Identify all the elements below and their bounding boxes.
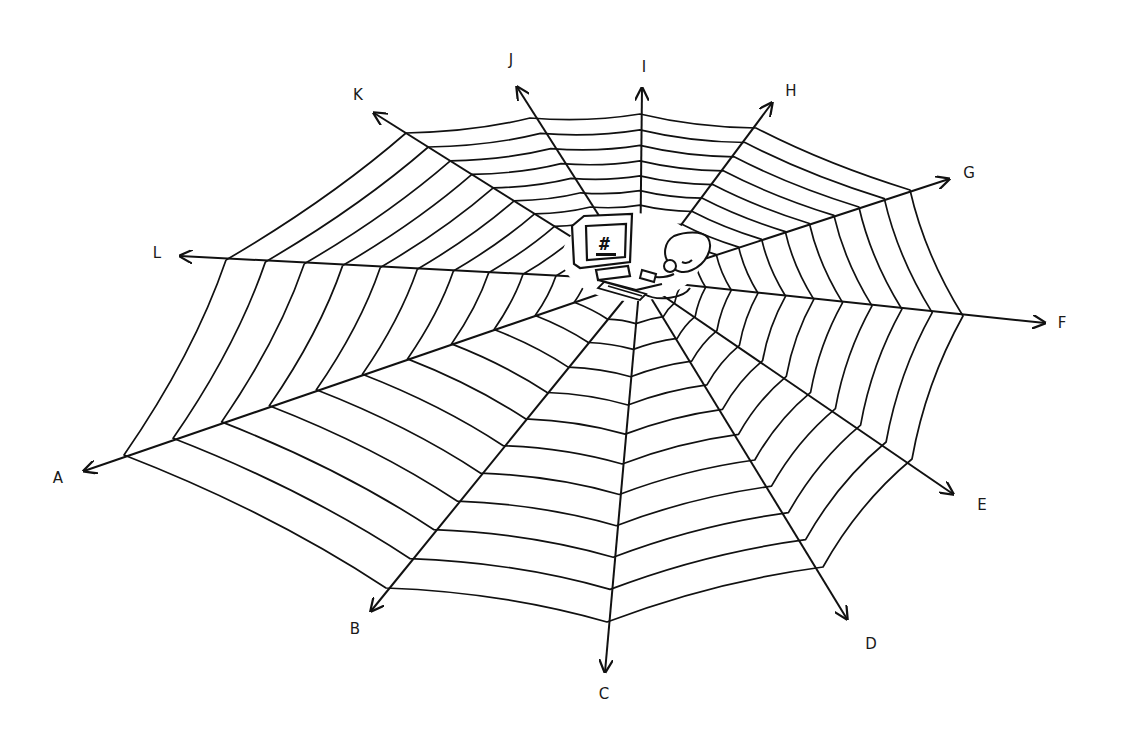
web-ring [269,161,872,526]
web-ring [124,114,963,622]
spoke-f [640,280,1045,323]
spoke-label-h: H [785,82,796,100]
spoke-label-b: B [350,620,360,638]
web-spokes [84,87,1045,672]
spoke-label-a: A [53,469,63,487]
spoke-label-e: E [977,496,986,514]
spoke-label-j: J [509,51,513,69]
screen-hash-icon: # [599,233,610,254]
spider-web-drawing: # [0,0,1123,747]
spoke-a [84,280,640,471]
spoke-label-f: F [1058,314,1067,332]
spoke-label-l: L [153,244,161,262]
spoke-label-i: I [642,58,646,76]
spoke-label-d: D [865,635,877,653]
spoke-c [605,280,640,672]
spoke-e [640,280,953,494]
spoke-label-c: C [599,685,609,703]
spoke-label-k: K [353,86,363,104]
spoke-label-g: G [963,164,975,182]
spider-web-diagram: # ABCDEFGHIJKL [0,0,1123,747]
hub-figure: # [562,213,710,301]
spoke-b [371,280,640,611]
web-rings [124,114,963,622]
web-ring [222,145,902,557]
